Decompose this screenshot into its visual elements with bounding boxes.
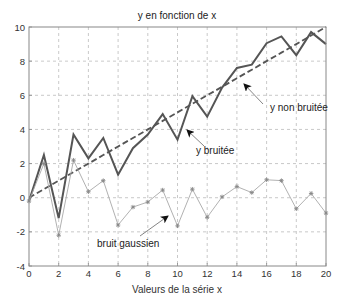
- x-tick-label: 18: [291, 268, 302, 279]
- annotation-bruit-gaussien: bruit gaussien: [97, 238, 159, 249]
- x-tick-label: 2: [56, 268, 61, 279]
- y-tick-label: -2: [17, 226, 25, 237]
- star-marker: [190, 187, 194, 191]
- y-tick-label: 2: [20, 158, 25, 169]
- x-tick-label: 8: [145, 268, 150, 279]
- star-marker: [264, 178, 268, 182]
- x-axis-label: Valeurs de la série x: [132, 284, 222, 295]
- star-marker: [116, 223, 120, 227]
- annotation-y-non-bruitée: y non bruitée: [270, 102, 328, 113]
- arrow-icon-y-non-bruitée: [244, 84, 263, 104]
- x-tick-label: 16: [261, 268, 272, 279]
- plot-frame: [29, 27, 326, 266]
- x-tick-label: 6: [115, 268, 120, 279]
- y-tick-label: 0: [20, 192, 25, 203]
- star-marker: [250, 190, 254, 194]
- y-tick-label: 10: [14, 22, 25, 33]
- star-marker: [205, 215, 209, 219]
- chart: 02468101214161820-4-20246810 y non bruit…: [0, 0, 348, 305]
- line-chart: 02468101214161820-4-20246810 y non bruit…: [0, 0, 348, 305]
- y-tick-label: 6: [20, 90, 25, 101]
- x-tick-label: 12: [202, 268, 213, 279]
- y-tick-label: 8: [20, 56, 25, 67]
- star-marker: [235, 184, 239, 188]
- x-tick-label: 4: [86, 268, 91, 279]
- axes: 02468101214161820-4-20246810: [14, 22, 331, 280]
- star-marker: [220, 195, 224, 199]
- annotations: y non bruitéey bruitéebruit gaussien: [97, 84, 328, 249]
- x-tick-label: 14: [232, 268, 243, 279]
- star-marker: [294, 207, 298, 211]
- y-tick-label: -4: [17, 261, 25, 272]
- star-marker: [279, 178, 283, 182]
- star-marker: [160, 188, 164, 192]
- star-marker: [71, 158, 75, 162]
- grid: [29, 27, 326, 266]
- star-marker: [131, 205, 135, 209]
- x-tick-label: 20: [321, 268, 332, 279]
- star-marker: [86, 190, 90, 194]
- star-marker: [101, 178, 105, 182]
- annotation-y-bruitée: y bruitée: [196, 145, 235, 156]
- y-tick-label: 4: [20, 124, 25, 135]
- star-marker: [42, 161, 46, 165]
- x-tick-label: 0: [26, 268, 31, 279]
- x-tick-label: 10: [172, 268, 183, 279]
- star-marker: [309, 191, 313, 195]
- chart-title: y en fonction de x: [138, 10, 216, 21]
- star-marker: [146, 200, 150, 204]
- star-marker: [57, 233, 61, 237]
- arrow-icon-y-bruitée: [187, 130, 204, 146]
- arrow-icon-bruit-gaussien: [140, 216, 168, 236]
- star-marker: [175, 224, 179, 228]
